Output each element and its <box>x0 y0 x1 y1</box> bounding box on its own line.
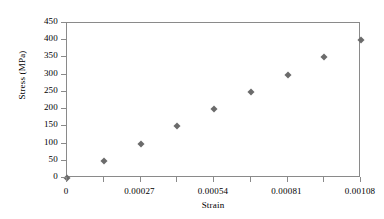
y-axis-tick-label: 50 <box>49 153 58 166</box>
data-point <box>357 37 364 44</box>
y-axis-tick-mark <box>61 22 66 23</box>
y-axis-tick-label: 300 <box>44 67 58 80</box>
y-axis-title: Stress (MPa) <box>17 15 27 135</box>
x-axis-tick-mark <box>360 177 361 182</box>
data-point <box>210 106 217 113</box>
y-axis-tick-mark <box>61 125 66 126</box>
y-axis-tick-label: 450 <box>44 15 58 28</box>
data-series-layer <box>67 23 359 176</box>
x-axis: 00.000270.000540.000810.00108 <box>66 177 360 219</box>
y-axis: 050100150200250300350400450 <box>0 22 66 177</box>
x-axis-tick-label: 0.00108 <box>345 185 376 197</box>
y-axis-tick-mark <box>61 39 66 40</box>
x-axis-tick-label: 0.00054 <box>198 185 229 197</box>
y-axis-tick-label: 250 <box>44 84 58 97</box>
data-point <box>321 54 328 61</box>
data-point <box>247 88 254 95</box>
x-axis-tick-label: 0.00027 <box>124 185 155 197</box>
y-axis-tick-label: 400 <box>44 32 58 45</box>
y-axis-tick-label: 150 <box>44 118 58 131</box>
stress-strain-chart: 050100150200250300350400450 Stress (MPa)… <box>0 0 384 219</box>
x-axis-tick-mark <box>140 177 141 182</box>
y-axis-tick-label: 350 <box>44 49 58 62</box>
data-point <box>174 123 181 130</box>
y-axis-tick-label: 0 <box>53 170 58 183</box>
x-axis-tick-mark <box>323 177 324 182</box>
y-axis-tick-mark <box>61 143 66 144</box>
x-axis-title: Strain <box>66 200 360 210</box>
x-axis-tick-label: 0 <box>64 185 69 197</box>
x-axis-tick-mark <box>250 177 251 182</box>
y-axis-tick-label: 100 <box>44 136 58 149</box>
plot-area <box>66 22 360 177</box>
y-axis-tick-mark <box>61 160 66 161</box>
data-point <box>284 71 291 78</box>
x-axis-tick-mark <box>213 177 214 182</box>
y-axis-tick-mark <box>61 108 66 109</box>
y-axis-tick-label: 200 <box>44 101 58 114</box>
x-axis-tick-mark <box>103 177 104 182</box>
x-axis-tick-label: 0.00081 <box>271 185 302 197</box>
y-axis-tick-mark <box>61 74 66 75</box>
data-point <box>137 140 144 147</box>
data-point <box>100 157 107 164</box>
y-axis-tick-mark <box>61 56 66 57</box>
x-axis-tick-mark <box>176 177 177 182</box>
x-axis-tick-mark <box>66 177 67 182</box>
y-axis-tick-mark <box>61 91 66 92</box>
x-axis-tick-mark <box>287 177 288 182</box>
